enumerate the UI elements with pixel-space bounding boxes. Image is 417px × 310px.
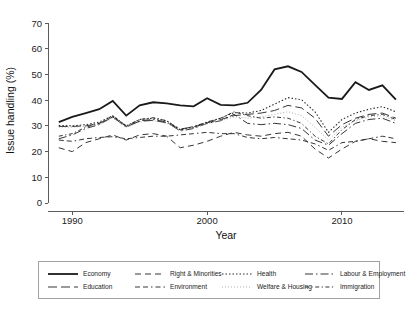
y-tick-label: 60 [31,43,42,54]
legend-label-right-minorities: Right & Minorities [170,270,222,278]
legend-label-education: Education [83,283,113,290]
legend-label-labour-employment: Labour & Employment [340,270,405,278]
data-series-group [59,66,396,158]
x-axis-ticks: 199020002010 [62,211,353,226]
y-tick-label: 20 [31,146,42,157]
x-tick-label: 2010 [331,215,352,226]
y-tick-label: 0 [37,197,42,208]
y-tick-label: 40 [31,95,42,106]
series-line-economy [59,66,396,122]
line-chart-svg: 010203040506070 199020002010 Year Issue … [0,0,417,310]
y-axis-group: 010203040506070 [31,18,48,209]
y-tick-label: 10 [31,172,42,183]
y-tick-label: 70 [31,18,42,29]
chart-figure: 010203040506070 199020002010 Year Issue … [0,0,417,310]
y-tick-label: 30 [31,120,42,131]
x-tick-label: 2000 [197,215,218,226]
series-line-right-minorities [59,132,396,158]
legend-items: EconomyRight & MinoritiesHealthLabour & … [48,270,405,291]
x-tick-label: 1990 [62,215,83,226]
legend-label-economy: Economy [83,270,111,278]
legend: EconomyRight & MinoritiesHealthLabour & … [38,261,405,298]
legend-label-environment: Environment [170,283,207,290]
y-axis-title: Issue handling (%) [4,67,16,154]
legend-label-health: Health [257,270,276,277]
x-axis-title: Year [215,229,237,241]
legend-label-immigration: Immigration [340,283,375,291]
legend-label-welfare-housing: Welfare & Housing [257,283,312,291]
x-axis-group: 199020002010 [48,211,404,226]
y-tick-label: 50 [31,69,42,80]
series-line-immigration [59,112,396,144]
legend-border [38,261,379,298]
y-axis-ticks: 010203040506070 [31,18,48,209]
